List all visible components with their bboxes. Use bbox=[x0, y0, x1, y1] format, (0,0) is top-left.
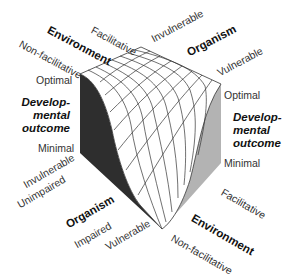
right-dev-line3: outcome bbox=[233, 137, 293, 150]
right-minimal: Minimal bbox=[224, 158, 260, 169]
right-dev-line2: mental bbox=[233, 124, 293, 137]
right-dev-line1: Develop- bbox=[233, 111, 293, 124]
right-dev-outcome-title: Develop- mental outcome bbox=[233, 111, 293, 150]
right-optimal: Optimal bbox=[224, 90, 260, 101]
left-dev-line1: Develop- bbox=[14, 96, 70, 109]
left-dev-line2: mental bbox=[14, 109, 70, 122]
left-dev-line3: outcome bbox=[14, 122, 70, 135]
left-dev-outcome-title: Develop- mental outcome bbox=[14, 96, 70, 135]
left-optimal: Optimal bbox=[36, 75, 72, 86]
